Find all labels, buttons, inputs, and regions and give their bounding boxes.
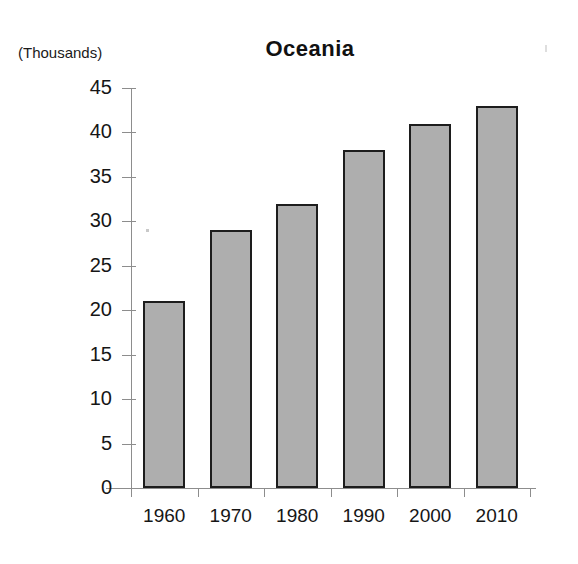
bar-2000 [409,124,451,488]
y-axis-tick-label: 45 [46,77,112,97]
y-axis-tick [122,444,136,445]
x-axis-tick [397,488,398,497]
x-axis-tick [131,488,132,497]
bar-1990 [343,150,385,488]
y-axis-tick-label: 35 [46,166,112,186]
y-axis-tick-label: 5 [46,433,112,453]
y-axis-tick [122,177,136,178]
bar-2010 [476,106,518,488]
scan-artifact-speck [545,45,547,52]
y-axis-units-caption: (Thousands) [18,44,102,61]
y-axis-tick-label: 15 [46,344,112,364]
x-axis-tick-label: 2010 [457,505,537,527]
y-axis-tick [122,488,136,489]
chart-title: Oceania [160,36,460,62]
y-axis-line [131,88,132,489]
x-axis-line [106,488,536,489]
bar-1960 [143,301,185,488]
x-axis-tick [198,488,199,497]
y-axis-tick-label: 40 [46,121,112,141]
y-axis-tick-label: 30 [46,210,112,230]
scan-artifact-speck [146,229,149,232]
y-axis-tick-label: 0 [46,477,112,497]
y-axis-tick [122,266,136,267]
y-axis-tick [122,221,136,222]
y-axis-tick-label: 10 [46,388,112,408]
x-axis-tick [464,488,465,497]
x-axis-tick [264,488,265,497]
y-axis-tick [122,355,136,356]
y-axis-tick [122,310,136,311]
bar-1980 [276,204,318,488]
y-axis-tick-label: 25 [46,255,112,275]
y-axis-tick-label: 20 [46,299,112,319]
x-axis-tick [530,488,531,497]
bar-chart-figure: (Thousands) Oceania 051015202530354045 1… [0,0,578,564]
bar-1970 [210,230,252,488]
x-axis-tick [331,488,332,497]
y-axis-tick [122,132,136,133]
y-axis-tick [122,88,136,89]
y-axis-tick [122,399,136,400]
